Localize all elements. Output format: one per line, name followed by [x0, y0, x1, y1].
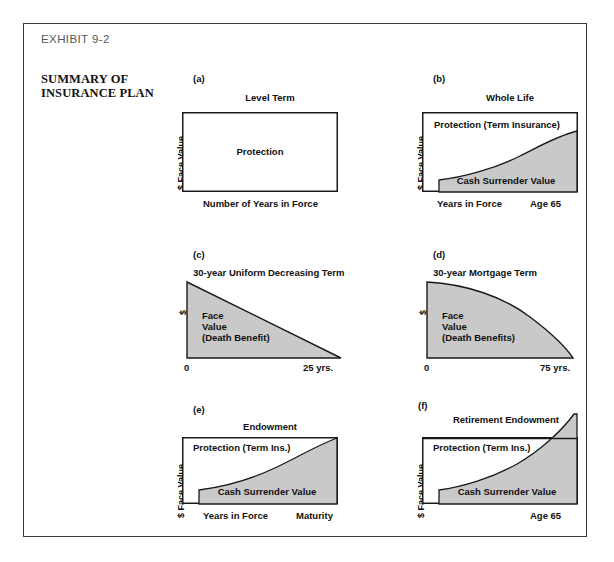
panel-f-x-axis-label-right: Age 65 [530, 510, 561, 521]
panel-a-plot: Protection [182, 112, 338, 192]
panel-d-x-axis-label-right: 75 yrs. [540, 362, 570, 373]
panel-a-x-axis-label: Number of Years in Force [203, 198, 318, 209]
panel-f-region-label-cash-value: Cash Surrender Value [458, 486, 557, 497]
panel-letter-f: (f) [418, 400, 428, 411]
panel-b-plot: Protection (Term Insurance) Cash Surrend… [422, 112, 578, 192]
panel-d-region-label-line1: Face [442, 310, 464, 321]
panel-letter-d: (d) [433, 249, 445, 260]
panel-e-region-label-cash-value: Cash Surrender Value [218, 486, 317, 497]
panel-c-region-label-line1: Face [202, 310, 224, 321]
panel-e-x-axis-label-right: Maturity [296, 510, 333, 521]
panel-c-x-axis-origin-label: 0 [184, 362, 189, 373]
panel-e-region-label-protection: Protection (Term Ins.) [193, 442, 290, 453]
panel-c-region-label-line2: Value [202, 321, 227, 332]
panel-f-region-label-protection: Protection (Term Ins.) [433, 442, 530, 453]
panel-c-plot: Face Value (Death Benefit) [186, 281, 342, 359]
panel-title-a: Level Term [210, 92, 330, 103]
panel-d-region-label-line2: Value [442, 321, 467, 332]
panel-d-plot: Face Value (Death Benefits) [426, 281, 582, 359]
panel-c-region-label-line3: (Death Benefit) [202, 332, 270, 343]
panel-title-e: Endowment [210, 421, 330, 432]
panel-title-b: Whole Life [450, 92, 570, 103]
panel-letter-b: (b) [433, 73, 445, 84]
panel-title-c: 30-year Uniform Decreasing Term [193, 267, 344, 278]
panel-c-x-axis-label-right: 25 yrs. [303, 362, 333, 373]
panel-d-x-axis-origin-label: 0 [424, 362, 429, 373]
panel-a-region-label-protection: Protection [237, 146, 284, 157]
panel-letter-e: (e) [193, 404, 205, 415]
panel-d-region-label-line3: (Death Benefits) [442, 332, 515, 343]
panel-b-x-axis-label-right: Age 65 [530, 198, 561, 209]
exhibit-title: SUMMARY OF INSURANCE PLAN [41, 73, 161, 100]
exhibit-page: EXHIBIT 9-2 SUMMARY OF INSURANCE PLAN (a… [0, 0, 614, 562]
panel-e-x-axis-label: Years in Force [203, 510, 268, 521]
panel-b-x-axis-label: Years in Force [437, 198, 502, 209]
panel-f-plot: Protection (Term Ins.) Cash Surrender Va… [422, 414, 580, 504]
exhibit-number-label: EXHIBIT 9-2 [41, 33, 110, 45]
panel-b-region-label-cash-value: Cash Surrender Value [457, 175, 556, 186]
panel-b-region-label-protection: Protection (Term Insurance) [434, 119, 560, 130]
panel-letter-c: (c) [193, 249, 205, 260]
panel-e-plot: Protection (Term Ins.) Cash Surrender Va… [182, 437, 338, 504]
panel-letter-a: (a) [193, 73, 205, 84]
panel-title-d: 30-year Mortgage Term [433, 267, 537, 278]
